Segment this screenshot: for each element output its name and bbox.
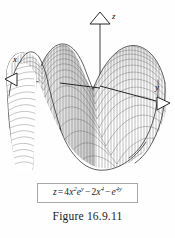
equation-term3-exp: 4y	[116, 185, 122, 192]
x-axis-label: x	[12, 54, 17, 64]
z-axis-arrow-icon	[90, 12, 110, 24]
equation-box: z=4x2ey−2x4−e4y	[37, 183, 138, 203]
z-axis-label: z	[111, 11, 116, 21]
figure-caption: Figure 16.9.11	[0, 210, 175, 222]
surface-plot: z x y	[0, 0, 175, 178]
equation-text: z=4x2ey−2x4−e4y	[53, 188, 122, 198]
figure-container: z x y z=4x2ey−2x4−e4y Figure 16.9.11	[0, 0, 175, 238]
y-axis-label: y	[154, 82, 159, 92]
